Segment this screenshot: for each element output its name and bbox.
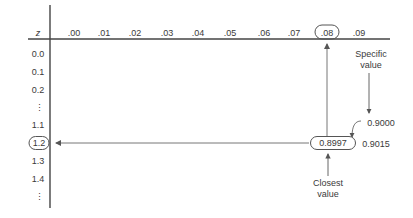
diagram-lines <box>0 0 413 218</box>
closest-cell-value: 0.8997 <box>319 138 347 148</box>
corner-z-label: z <box>36 28 41 38</box>
specific-value: 0.9000 <box>367 118 395 128</box>
column-header: .03 <box>161 28 174 38</box>
column-header-highlighted: .08 <box>321 28 334 38</box>
column-header: .07 <box>288 28 301 38</box>
row-label: 0.0 <box>32 49 45 59</box>
row-label-highlighted: 1.2 <box>33 138 46 148</box>
column-header: .06 <box>258 28 271 38</box>
specific-value-label: Specific value <box>355 49 387 71</box>
curved-pointer-arrow <box>352 121 361 137</box>
column-header: .01 <box>98 28 111 38</box>
column-header: .02 <box>129 28 142 38</box>
row-label: 1.1 <box>32 120 45 130</box>
row-label: 0.1 <box>32 67 45 77</box>
row-label: 1.4 <box>32 174 45 184</box>
row-label: 0.2 <box>32 85 45 95</box>
closest-value-label: Closest value <box>313 178 343 200</box>
column-header: .09 <box>353 28 366 38</box>
column-header: .04 <box>192 28 205 38</box>
row-ellipsis: ⋮ <box>35 192 44 202</box>
next-value: 0.9015 <box>362 139 390 149</box>
column-header: .00 <box>68 28 81 38</box>
column-header: .05 <box>224 28 237 38</box>
row-label: 1.3 <box>32 156 45 166</box>
row-ellipsis: ⋮ <box>35 103 44 113</box>
